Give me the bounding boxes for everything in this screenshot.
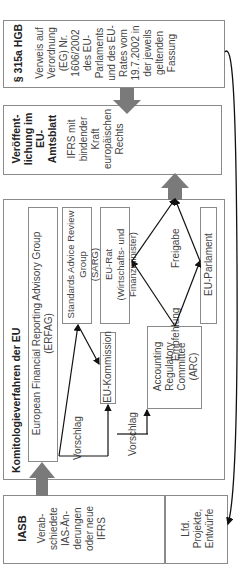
big-arrow-iasb-to-erfag: [29, 462, 55, 496]
big-arrow-komitologie-to-amtsblatt: [161, 173, 189, 200]
arrow-arc-to-rat: [132, 261, 175, 326]
diagram-stage: IASB Verab- schiedete IAS-Än- derungen o…: [0, 0, 243, 564]
arrow-rat-to-freigabe: [132, 199, 175, 261]
arrow-erfag-to-sarg: [59, 325, 78, 456]
big-arrow-hgb-to-amtsblatt: [113, 88, 141, 114]
arrow-parlament-to-freigabe: [175, 199, 200, 261]
curved-arrow-hgb-to-lfd-projekte: [225, 51, 237, 524]
connectors: [0, 0, 243, 564]
arrow-sarg-to-kommission: [78, 325, 99, 364]
arrow-arc-to-parlament: [175, 261, 200, 326]
